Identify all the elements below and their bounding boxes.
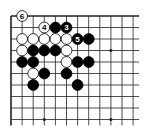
black-stone	[72, 57, 83, 68]
star-point	[109, 118, 112, 121]
go-board-diagram: 6435	[0, 0, 146, 130]
white-stone-6: 6	[17, 11, 28, 22]
black-stone	[61, 68, 72, 79]
move-number: 4	[42, 23, 47, 32]
white-stone	[50, 34, 61, 45]
white-stone	[28, 68, 39, 79]
move-number: 3	[64, 23, 69, 32]
white-stone	[61, 45, 72, 56]
white-stone	[61, 57, 72, 68]
white-stone	[17, 45, 28, 56]
move-number: 6	[20, 12, 25, 21]
move-number: 5	[75, 35, 80, 44]
black-stone	[39, 68, 50, 79]
white-stone	[28, 34, 39, 45]
black-stone	[28, 80, 39, 91]
black-stone-5: 5	[72, 34, 83, 45]
black-stone	[83, 57, 94, 68]
black-stone	[83, 34, 94, 45]
black-stone-3: 3	[61, 22, 72, 33]
black-stone	[50, 22, 61, 33]
white-stone	[39, 34, 50, 45]
star-point	[43, 118, 46, 121]
black-stone	[50, 45, 61, 56]
white-stone	[17, 34, 28, 45]
star-point	[109, 49, 112, 52]
black-stone	[28, 45, 39, 56]
black-stone	[72, 80, 83, 91]
white-stone-4: 4	[39, 22, 50, 33]
black-stone	[39, 45, 50, 56]
black-stone	[17, 57, 28, 68]
white-stone	[61, 34, 72, 45]
black-stone	[28, 57, 39, 68]
